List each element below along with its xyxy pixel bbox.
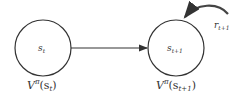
reward-label: rt+1 [214,20,230,31]
svg-text:st+1: st+1 [167,43,183,54]
reward-curved-arrow [185,6,228,17]
value-label-s-t: Vπ(st) [27,78,57,93]
value-label-s-t-plus-1: Vπ(st+1) [156,78,196,93]
node-s-t: st [15,20,71,76]
svg-text:st: st [38,43,46,54]
mdp-transition-diagram: st st+1 rt+1 Vπ(st) Vπ(st+1) [0,0,245,98]
node-s-t-plus-1: st+1 [148,20,204,76]
